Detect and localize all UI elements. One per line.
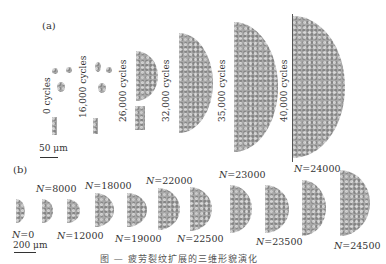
n-label-22500: N=22500: [177, 233, 224, 244]
crack-image-32000: [179, 33, 213, 133]
cycle-label-40000: 40,000 cycles: [279, 60, 289, 122]
crack-image-16000b: [106, 67, 112, 73]
crack-image-16000d: [93, 118, 98, 134]
cycle-label-35000: 35,000 cycles: [217, 60, 227, 122]
cycle-label-26000: 26,000 cycles: [118, 60, 128, 122]
panel-b-label: (b): [13, 164, 27, 175]
crack-image-40000-edge: [292, 14, 293, 162]
n-label-0: N=0: [12, 229, 34, 240]
figure-caption: 图 — 疲劳裂纹扩展的三维形貌演化: [100, 252, 258, 264]
crack-image-n18000: [95, 193, 114, 227]
cycle-label-0: 0 cycles: [42, 77, 52, 114]
crack-image-16000a: [95, 62, 101, 72]
n-label-24000: N=24000: [294, 163, 341, 174]
crack-image-n24000: [302, 180, 326, 236]
crack-image-n24500: [340, 170, 370, 236]
crack-image-26000b: [135, 106, 145, 130]
crack-image-n22000: [158, 188, 180, 230]
crack-image-0b: [66, 67, 72, 73]
n-label-8000: N=8000: [36, 183, 76, 194]
crack-image-0a: [52, 68, 58, 74]
n-label-19000: N=19000: [115, 233, 162, 244]
crack-image-35000: [234, 22, 278, 152]
crack-image-0c: [57, 82, 65, 92]
crack-image-n19000: [127, 193, 147, 227]
crack-image-n23500: [265, 185, 289, 233]
n-label-23500: N=23500: [256, 236, 303, 247]
scale-bar-b-label: 200 μm: [13, 240, 47, 250]
n-label-18000: N=18000: [85, 180, 132, 191]
cycle-label-32000: 32,000 cycles: [161, 60, 171, 122]
scale-bar-a: [40, 157, 58, 158]
n-label-12000: N=12000: [57, 230, 104, 241]
crack-image-n8000: [42, 199, 53, 223]
crack-image-16000c: [98, 83, 106, 93]
cycle-label-16000: 16,000 cycles: [78, 56, 88, 118]
n-label-23000: N=23000: [219, 169, 266, 180]
crack-image-0d: [52, 117, 57, 135]
n-label-24500: N=24500: [334, 240, 381, 251]
crack-image-26000a: [136, 51, 158, 101]
scale-bar-a-label: 50 μm: [39, 143, 68, 153]
scale-bar-b: [14, 252, 36, 253]
panel-a-label: (a): [42, 20, 56, 31]
crack-image-n22500: [190, 187, 212, 231]
n-label-22000: N=22000: [146, 175, 193, 186]
crack-image-n0: [16, 199, 25, 223]
crack-image-n23000: [230, 185, 252, 233]
crack-image-40000: [293, 16, 345, 158]
crack-image-n12000: [67, 199, 80, 223]
